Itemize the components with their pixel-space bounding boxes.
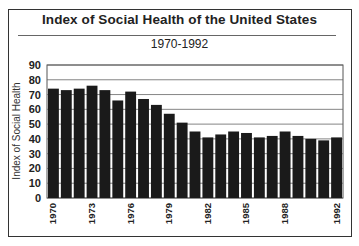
bar-1984 [228,132,239,199]
bar-1990 [305,139,316,198]
y-axis-label: Index of Social Health [11,82,22,179]
bar-1978 [151,105,162,198]
x-tick-label: 1976 [125,203,136,224]
y-tick-label: 10 [29,177,41,189]
y-tick-label: 30 [29,148,41,160]
bar-1981 [190,132,201,199]
x-tick-label: 1985 [240,202,251,224]
x-tick-label: 1992 [331,203,342,224]
y-tick-label: 70 [29,89,41,101]
bar-1972 [74,89,85,198]
bar-1985 [241,133,252,198]
bar-1989 [293,136,304,198]
bar-1974 [99,90,110,198]
bar-1977 [138,99,149,198]
bar-1973 [87,86,98,198]
bar-1979 [164,114,175,198]
y-axis-ticks: 0102030405060708090 [29,59,41,204]
bar-chart: 0102030405060708090 19701973197619791982… [0,0,359,246]
y-tick-label: 60 [29,103,41,115]
bar-1983 [215,134,226,198]
x-tick-label: 1979 [163,203,174,224]
y-tick-label: 20 [29,162,41,174]
bar-1986 [254,137,265,198]
x-tick-label: 1973 [86,203,97,224]
x-tick-label: 1982 [202,203,213,224]
bar-1987 [267,136,278,198]
bar-1980 [177,123,188,198]
y-tick-label: 50 [29,118,41,130]
x-tick-label: 1970 [47,203,58,224]
y-tick-label: 40 [29,133,41,145]
bar-1975 [112,100,123,198]
bar-1988 [280,132,291,199]
bar-1970 [48,89,59,198]
bar-1991 [318,140,329,198]
x-axis-ticks: 19701973197619791982198519881992 [47,202,341,224]
y-tick-label: 0 [35,192,41,204]
bar-1976 [125,92,136,198]
bar-1971 [61,90,72,198]
bars [48,86,342,198]
bar-1982 [202,137,213,198]
x-tick-label: 1988 [279,203,290,224]
y-tick-label: 90 [29,59,41,71]
bar-1992 [331,137,342,198]
y-tick-label: 80 [29,74,41,86]
